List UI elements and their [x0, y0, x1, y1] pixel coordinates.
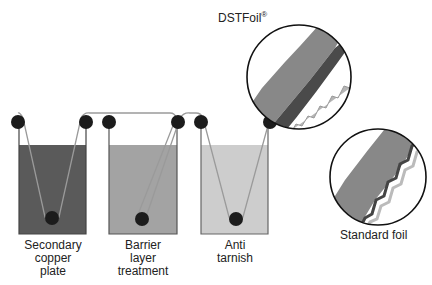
roller-icon [194, 115, 208, 129]
roller-icon [135, 212, 149, 226]
roller-icon [171, 115, 185, 129]
roller-icon [229, 212, 243, 226]
tank-label-barrier-layer: Barrierlayertreatment [98, 239, 188, 278]
roller-icon [11, 115, 25, 129]
tank-label-anti-tarnish: Antitarnish [190, 239, 280, 265]
dstfoil-label: DSTFoil® [218, 10, 267, 25]
process-diagram: DSTFoil® Standard foil Secondarycopperpl… [0, 0, 432, 285]
tank-label-secondary-copper: Secondarycopperplate [8, 239, 98, 278]
standard-foil-magnified-view [320, 118, 426, 240]
roller-icon [45, 211, 59, 225]
roller-icon [102, 115, 116, 129]
roller-icon [79, 115, 93, 129]
standard-foil-label: Standard foil [340, 228, 407, 242]
